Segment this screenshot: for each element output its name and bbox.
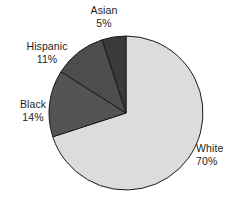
pie-label-hispanic-percent: 11% <box>14 53 80 66</box>
pie-label-white-name: White <box>196 142 241 155</box>
pie-label-white-percent: 70% <box>196 155 241 168</box>
pie-label-hispanic: Hispanic 11% <box>14 40 80 65</box>
pie-label-hispanic-name: Hispanic <box>14 40 80 53</box>
pie-label-asian: Asian 5% <box>74 4 134 29</box>
pie-chart: Asian 5% Hispanic 11% Black 14% White 70… <box>0 0 241 200</box>
pie-label-black-name: Black <box>6 98 60 111</box>
pie-label-black-percent: 14% <box>6 111 60 124</box>
pie-label-black: Black 14% <box>6 98 60 123</box>
pie-label-white: White 70% <box>196 142 241 167</box>
pie-label-asian-name: Asian <box>74 4 134 17</box>
pie-label-asian-percent: 5% <box>74 17 134 30</box>
